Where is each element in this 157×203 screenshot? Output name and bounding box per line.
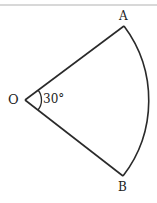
arc-ab [123, 26, 149, 176]
radius-ob [25, 100, 123, 176]
radius-oa [25, 26, 124, 100]
label-o: O [8, 93, 19, 106]
sector-diagram [0, 0, 157, 203]
label-a: A [119, 10, 128, 22]
angle-label: 30° [43, 93, 64, 105]
angle-arc [38, 90, 42, 110]
label-b: B [118, 181, 127, 193]
